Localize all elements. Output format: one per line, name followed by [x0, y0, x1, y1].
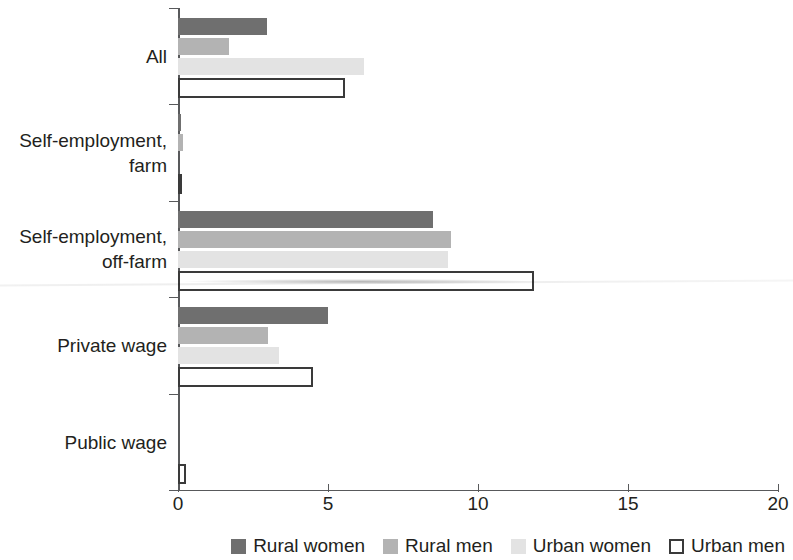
x-axis-tick	[778, 484, 779, 492]
legend-label: Urban men	[691, 535, 785, 557]
y-axis-tick	[169, 297, 178, 298]
bar	[178, 464, 186, 484]
category-label: All	[0, 44, 167, 69]
legend-swatch-icon	[511, 539, 526, 554]
bar	[178, 174, 182, 194]
category-label: Self-employment, off-farm	[0, 224, 167, 274]
bar	[178, 271, 534, 291]
bar	[178, 18, 267, 35]
bar	[178, 38, 229, 55]
legend-swatch-icon	[231, 539, 246, 554]
legend-swatch-icon	[383, 539, 398, 554]
y-axis-tick	[169, 104, 178, 105]
category-label: Public wage	[0, 429, 167, 454]
legend-label: Rural women	[253, 535, 365, 557]
category-axis-labels: AllSelf-employment, farmSelf-employment,…	[0, 0, 167, 500]
x-axis-tick	[328, 484, 329, 492]
x-axis-tick-label: 20	[767, 493, 788, 515]
legend-label: Rural men	[405, 535, 493, 557]
x-axis-tick-label: 5	[323, 493, 334, 515]
bar	[178, 231, 451, 248]
bar	[178, 251, 448, 268]
legend-item[interactable]: Urban men	[669, 535, 785, 557]
y-axis-tick	[169, 394, 178, 395]
category-label: Self-employment, farm	[0, 128, 167, 178]
chart-legend: Rural womenRural menUrban womenUrban men	[0, 532, 793, 560]
bar-chart-figure: AllSelf-employment, farmSelf-employment,…	[0, 0, 793, 560]
y-axis-tick	[169, 201, 178, 202]
legend-item[interactable]: Urban women	[511, 535, 651, 557]
bar	[178, 367, 313, 387]
bar	[178, 307, 328, 324]
bar	[178, 327, 268, 344]
legend-label: Urban women	[533, 535, 651, 557]
legend-item[interactable]: Rural men	[383, 535, 493, 557]
x-axis-tick	[628, 484, 629, 492]
x-axis-ticks: 05101520	[178, 491, 778, 525]
x-axis-tick	[478, 484, 479, 492]
x-axis-tick-label: 0	[173, 493, 184, 515]
y-axis-tick	[169, 490, 178, 491]
plot-area	[178, 8, 778, 490]
category-label: Private wage	[0, 333, 167, 358]
legend-swatch-icon	[669, 539, 684, 554]
bar	[178, 78, 345, 98]
bar	[178, 211, 433, 228]
y-axis-tick	[169, 8, 178, 9]
bar	[178, 114, 181, 131]
bar	[178, 347, 279, 364]
x-axis-tick-label: 10	[467, 493, 488, 515]
bar	[178, 134, 183, 151]
x-axis-tick	[178, 484, 179, 492]
bar	[178, 58, 364, 75]
x-axis-tick-label: 15	[617, 493, 638, 515]
legend-item[interactable]: Rural women	[231, 535, 365, 557]
